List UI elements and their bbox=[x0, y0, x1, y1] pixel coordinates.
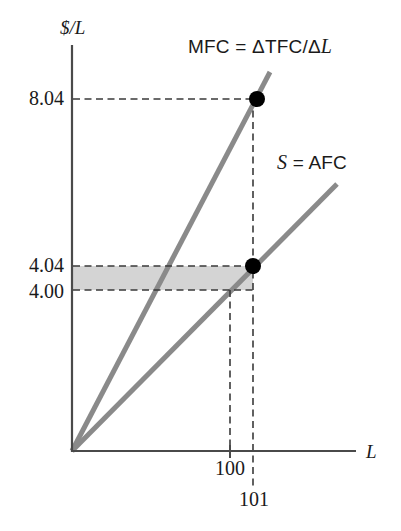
afc-curve-label: S = AFC bbox=[277, 152, 347, 172]
y-axis-title: $/L bbox=[60, 18, 85, 37]
x-axis-title: L bbox=[366, 442, 377, 461]
data-point-mfc-101 bbox=[249, 91, 265, 107]
mfc-label-expression: ΔTFC/Δ bbox=[252, 36, 321, 57]
mfc-label-equals: = bbox=[235, 36, 246, 57]
factor-market-chart: $/L L 8.04 4.04 4.00 100 101 MFC = ΔTFC/… bbox=[0, 0, 401, 531]
afc-label-equals: = bbox=[293, 152, 304, 173]
data-point-afc-101 bbox=[245, 258, 261, 274]
mfc-curve bbox=[72, 72, 270, 451]
x-tick-label-101: 101 bbox=[220, 489, 288, 509]
y-tick-label-4-00: 4.00 bbox=[8, 281, 64, 301]
mfc-curve-label: MFC = ΔTFC/ΔL bbox=[188, 36, 332, 56]
mfc-label-prefix: MFC bbox=[188, 36, 230, 57]
mfc-label-variable: L bbox=[321, 35, 332, 57]
y-tick-label-8-04: 8.04 bbox=[8, 88, 64, 108]
afc-label-text: AFC bbox=[308, 152, 347, 173]
afc-label-variable: S bbox=[277, 151, 287, 173]
y-tick-label-4-04: 4.04 bbox=[8, 255, 64, 275]
x-tick-label-100: 100 bbox=[196, 458, 264, 478]
afc-supply-curve bbox=[72, 184, 337, 451]
